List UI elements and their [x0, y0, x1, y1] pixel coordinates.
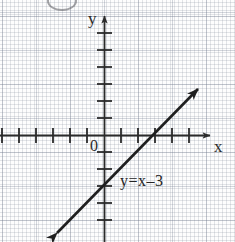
coordinate-plane-svg	[0, 0, 235, 242]
x-axis-label: x	[214, 138, 223, 155]
y-axis	[97, 16, 112, 242]
graph-line-y-equals-x-minus-3	[57, 89, 198, 233]
y-axis-label: y	[88, 10, 97, 27]
graph-figure: y x 0 y=x–3	[0, 0, 235, 242]
origin-label: 0	[90, 137, 98, 154]
equation-annotation: y=x–3	[120, 172, 164, 189]
